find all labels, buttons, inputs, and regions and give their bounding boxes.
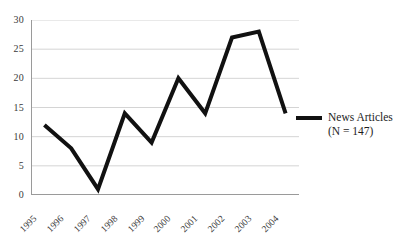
x-tick-label: 1997	[72, 214, 93, 235]
plot-area	[31, 20, 299, 195]
x-tick-label: 2001	[179, 214, 200, 235]
y-tick-label: 20	[14, 73, 24, 83]
y-tick-label: 25	[14, 44, 24, 54]
x-axis: 1995199619971998199920002001200220032004	[31, 196, 299, 237]
plot-canvas	[31, 20, 299, 195]
chart-legend: News Articles (N = 147)	[296, 110, 407, 138]
legend-label-line1: News Articles	[328, 110, 393, 124]
x-tick-label: 1998	[99, 214, 120, 235]
x-tick-label: 1996	[45, 214, 66, 235]
legend-swatch-news-articles	[296, 116, 322, 120]
y-tick-label: 10	[14, 132, 24, 142]
x-tick-label: 2004	[260, 214, 281, 235]
line-chart-figure: 051015202530 199519961997199819992000200…	[0, 0, 407, 237]
x-tick-label: 2000	[152, 214, 173, 235]
x-tick-label: 2003	[233, 214, 254, 235]
y-axis: 051015202530	[0, 20, 29, 195]
y-tick-label: 30	[14, 15, 24, 25]
x-tick-label: 1995	[18, 214, 39, 235]
legend-label-line2: (N = 147)	[328, 124, 393, 138]
legend-label-news-articles: News Articles (N = 147)	[328, 110, 393, 138]
y-tick-label: 5	[19, 161, 24, 171]
x-tick-label: 2002	[206, 214, 227, 235]
x-tick-label: 1999	[126, 214, 147, 235]
y-tick-label: 15	[14, 103, 24, 113]
y-tick-label: 0	[19, 190, 24, 200]
